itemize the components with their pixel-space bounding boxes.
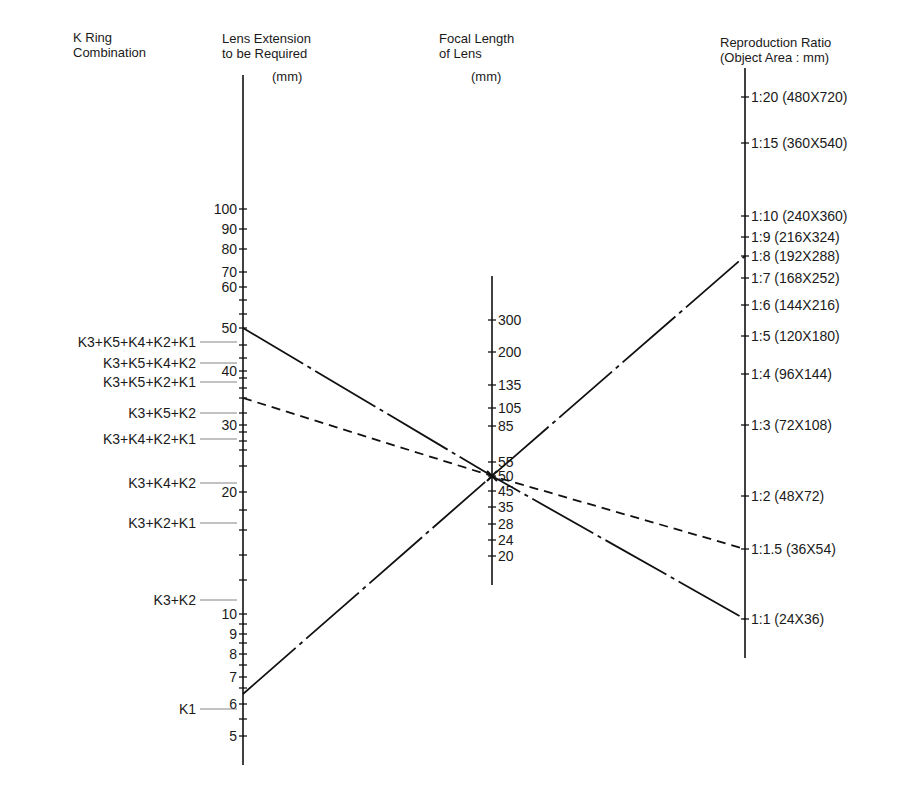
ratio-tick-label: 1:15 (360X540) [751, 135, 848, 151]
extension-tick-label: 8 [229, 646, 237, 662]
k-ring-label: K3+K5+K4+K2 [103, 355, 196, 371]
extension-tick-label: 80 [221, 241, 237, 257]
nomogram-diagram: K Ring Combination Lens Extension to be … [0, 0, 905, 801]
ratio-tick-label: 1:10 (240X360) [751, 208, 848, 224]
focal-tick-label: 45 [498, 483, 514, 499]
focal-tick-label: 200 [498, 344, 522, 360]
extension-tick-label: 90 [221, 221, 237, 237]
ratio-tick-label: 1:6 (144X216) [751, 297, 840, 313]
extension-tick-label: 5 [229, 728, 237, 744]
extension-tick-label: 10 [221, 606, 237, 622]
extension-tick-label: 70 [221, 264, 237, 280]
extension-tick-label: 20 [221, 484, 237, 500]
k-ring-label: K3+K2 [154, 592, 197, 608]
k-ring-label: K1 [179, 701, 196, 717]
ratio-tick-label: 1:4 (96X144) [751, 366, 832, 382]
extension-tick-label: 6 [229, 696, 237, 712]
k-ring-label: K3+K4+K2 [128, 475, 196, 491]
focal-tick-label: 105 [498, 400, 522, 416]
focal-tick-label: 28 [498, 516, 514, 532]
extension-tick-label: 9 [229, 626, 237, 642]
focal-tick-label: 85 [498, 418, 514, 434]
focal-tick-label: 300 [498, 312, 522, 328]
nomogram-plot: 1009080706050403020109876530020013510585… [0, 0, 905, 801]
extension-tick-label: 40 [221, 363, 237, 379]
ratio-tick-label: 1:2 (48X72) [751, 488, 824, 504]
focal-tick-label: 135 [498, 377, 522, 393]
axes: 1009080706050403020109876530020013510585… [214, 68, 848, 765]
ratio-tick-label: 1:1 (24X36) [751, 611, 824, 627]
ratio-tick-label: 1:3 (72X108) [751, 417, 832, 433]
ratio-tick-label: 1:1.5 (36X54) [751, 541, 836, 557]
focal-tick-label: 20 [498, 548, 514, 564]
example-lines [243, 256, 745, 694]
k-ring-label: K3+K2+K1 [128, 515, 196, 531]
ratio-tick-label: 1:7 (168X252) [751, 270, 840, 286]
extension-tick-label: 7 [229, 669, 237, 685]
extension-tick-label: 60 [221, 279, 237, 295]
k-ring-label: K3+K5+K2 [128, 405, 196, 421]
ratio-tick-label: 1:20 (480X720) [751, 89, 848, 105]
extension-tick-label: 100 [214, 201, 238, 217]
focal-tick-label: 24 [498, 532, 514, 548]
extension-tick-label: 50 [221, 320, 237, 336]
k-ring-label: K3+K4+K2+K1 [103, 431, 196, 447]
k-ring-labels: K3+K5+K4+K2+K1K3+K5+K4+K2K3+K5+K2+K1K3+K… [78, 334, 237, 717]
ratio-tick-label: 1:5 (120X180) [751, 328, 840, 344]
focal-tick-label: 35 [498, 499, 514, 515]
k-ring-label: K3+K5+K4+K2+K1 [78, 334, 197, 350]
ratio-tick-label: 1:9 (216X324) [751, 229, 840, 245]
k-ring-label: K3+K5+K2+K1 [103, 374, 196, 390]
ratio-tick-label: 1:8 (192X288) [751, 248, 840, 264]
extension-tick-label: 30 [221, 417, 237, 433]
